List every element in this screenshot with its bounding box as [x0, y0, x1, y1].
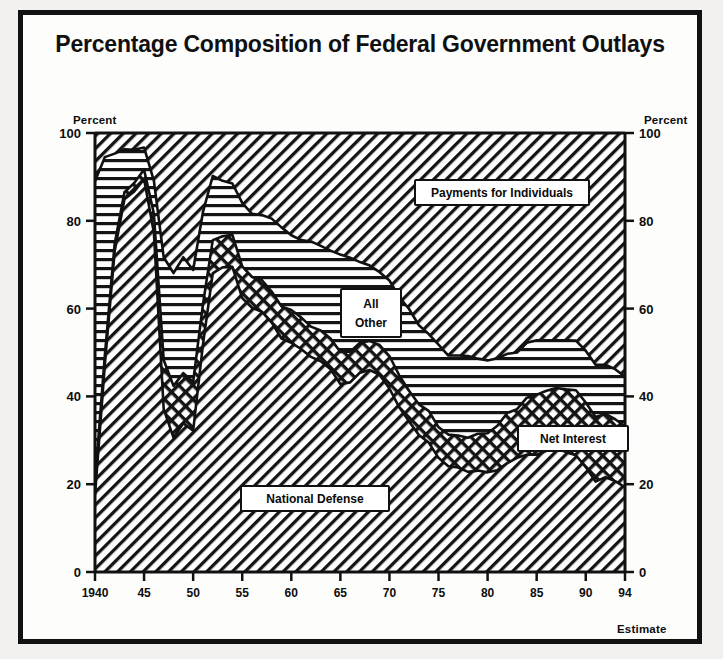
y-tick-label: 100 — [59, 126, 81, 141]
callout-net-interest: Net Interest — [518, 426, 628, 451]
y-tick-label: 20 — [67, 477, 81, 492]
y-tick-label: 60 — [639, 302, 653, 317]
x-tick-label: 75 — [432, 586, 446, 600]
y-tick-label: 80 — [639, 214, 653, 229]
y-tick-label: 60 — [67, 302, 81, 317]
callout-payments-label: Payments for Individuals — [431, 186, 573, 200]
x-tick-label: 1940 — [82, 586, 109, 600]
figure-frame: Percentage Composition of Federal Govern… — [18, 10, 702, 644]
x-axis-ticks: 19404550556065707580859094 — [82, 572, 632, 600]
callout-national-defense-label: National Defense — [266, 492, 364, 506]
x-tick-label: 50 — [186, 586, 200, 600]
x-tick-label: 65 — [334, 586, 348, 600]
x-tick-label: 70 — [383, 586, 397, 600]
y-tick-label: 0 — [74, 565, 81, 580]
callout-payments-for-individuals: Payments for Individuals — [415, 180, 589, 205]
callout-all-other-label-line1: All — [363, 297, 378, 311]
x-tick-label: 55 — [236, 586, 250, 600]
y-tick-label: 40 — [67, 389, 81, 404]
screenshot-page: Percentage Composition of Federal Govern… — [0, 0, 723, 659]
y-tick-label: 40 — [639, 389, 653, 404]
x-tick-label: 90 — [579, 586, 593, 600]
stacked-area-chart: 020406080100 020406080100 19404550556065… — [23, 15, 697, 639]
y-axis-ticks-right: 020406080100 — [625, 126, 661, 580]
x-tick-label: 60 — [285, 586, 299, 600]
y-axis-ticks-left: 020406080100 — [59, 126, 95, 580]
callout-all-other-label-line2: Other — [355, 316, 387, 330]
callout-all-other: All Other — [341, 289, 401, 337]
callout-net-interest-label: Net Interest — [540, 432, 606, 446]
y-tick-label: 100 — [639, 126, 661, 141]
x-tick-label: 80 — [481, 586, 495, 600]
y-tick-label: 80 — [67, 214, 81, 229]
x-tick-label: 45 — [137, 586, 151, 600]
callout-national-defense: National Defense — [241, 486, 389, 511]
y-tick-label: 20 — [639, 477, 653, 492]
x-tick-label: 85 — [530, 586, 544, 600]
y-tick-label: 0 — [639, 565, 646, 580]
x-tick-label: 94 — [618, 586, 632, 600]
